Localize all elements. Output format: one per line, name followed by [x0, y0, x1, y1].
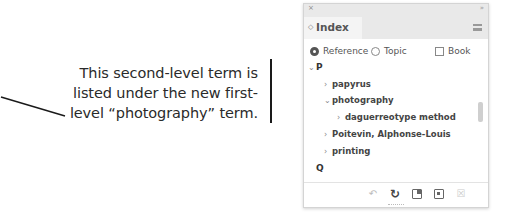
tab-label: Index — [316, 21, 349, 33]
tab-grip-icon: ◇ — [308, 23, 313, 31]
chevron-right-icon[interactable]: › — [324, 80, 332, 89]
tree-row-label: photography — [332, 95, 394, 105]
index-mode-options: Reference Topic Book — [304, 44, 488, 60]
tree-scrollbar[interactable] — [476, 62, 486, 180]
tree-row-label: Poitevin, Alphonse-Louis — [332, 129, 451, 139]
create-new-index-entry-icon[interactable] — [434, 189, 444, 199]
update-preview-icon[interactable]: ↻ — [390, 189, 400, 199]
generate-index-icon[interactable] — [412, 189, 422, 199]
reference-radio[interactable] — [310, 47, 319, 56]
book-label[interactable]: Book — [448, 46, 470, 56]
delete-entry-icon[interactable]: ☒ — [456, 189, 466, 199]
book-checkbox[interactable] — [435, 47, 444, 56]
callout-caption: This second-level term is listed under t… — [30, 63, 258, 123]
callout-bracket-line — [270, 59, 272, 123]
tree-row-printing[interactable]: ›printing — [324, 146, 370, 160]
topic-radio[interactable] — [371, 47, 380, 56]
tree-letter-p[interactable]: ⌄P — [308, 62, 323, 76]
chevron-down-icon[interactable]: ⌄ — [308, 63, 316, 72]
collapse-panel-icon[interactable]: » — [480, 4, 483, 12]
tree-row-papyrus[interactable]: ›papyrus — [324, 79, 371, 93]
tree-row-daguerreotype-method[interactable]: ›daguerreotype method — [337, 112, 456, 126]
panel-menu-icon[interactable] — [473, 24, 482, 31]
tree-row-photography[interactable]: ⌄photography — [324, 95, 394, 109]
tree-row-label: daguerreotype method — [345, 112, 456, 122]
tree-row-label: P — [316, 62, 323, 72]
tree-letter-q[interactable]: Q — [316, 163, 324, 177]
caption-line-2: listed under the new first- — [30, 83, 258, 103]
panel-tab-row: ◇ Index — [304, 17, 488, 39]
topic-label[interactable]: Topic — [384, 46, 407, 56]
index-panel: × » ◇ Index Reference Topic Book ⌄P ›pap… — [303, 3, 489, 208]
reference-label[interactable]: Reference — [323, 46, 368, 56]
caption-line-1: This second-level term is — [30, 63, 258, 83]
tree-row-poitevin[interactable]: ›Poitevin, Alphonse-Louis — [324, 129, 451, 143]
tree-row-label: printing — [332, 146, 370, 156]
panel-resize-grip[interactable] — [388, 204, 404, 207]
chevron-right-icon[interactable]: › — [324, 130, 332, 139]
panel-title-bar[interactable]: × » — [304, 4, 488, 17]
tree-row-label: Q — [316, 163, 324, 173]
chevron-right-icon[interactable]: › — [324, 147, 332, 156]
tree-row-label: papyrus — [332, 79, 371, 89]
tab-index[interactable]: ◇ Index — [304, 17, 362, 39]
scrollbar-thumb[interactable] — [478, 102, 483, 122]
index-entry-tree: ⌄P ›papyrus ⌄photography ›daguerreotype … — [304, 62, 476, 180]
close-icon[interactable]: × — [308, 4, 314, 12]
go-to-selected-marker-icon[interactable]: ↶ — [368, 189, 378, 199]
chevron-right-icon[interactable]: › — [337, 113, 345, 122]
caption-line-3: level “photography” term. — [30, 103, 258, 123]
chevron-down-icon[interactable]: ⌄ — [324, 96, 332, 105]
panel-footer-toolbar: ↶ ↻ ☒ — [304, 182, 488, 208]
